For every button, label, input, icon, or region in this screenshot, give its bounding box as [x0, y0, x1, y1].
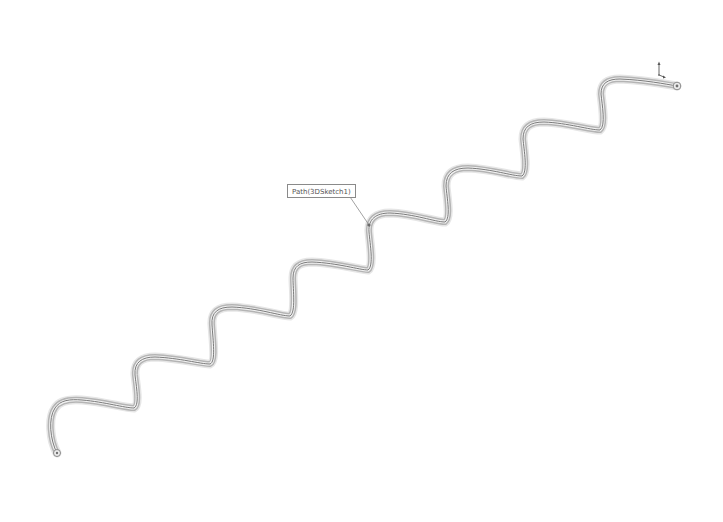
- path-start-endcap: [54, 450, 61, 457]
- path-end-endcap: [673, 82, 681, 90]
- graphics-viewport[interactable]: Path(3DSketch1): [0, 0, 723, 522]
- path-callout-label[interactable]: Path(3DSketch1): [287, 184, 356, 198]
- swept-path-tube[interactable]: [51, 79, 677, 453]
- coordinate-triad-icon: [658, 62, 667, 79]
